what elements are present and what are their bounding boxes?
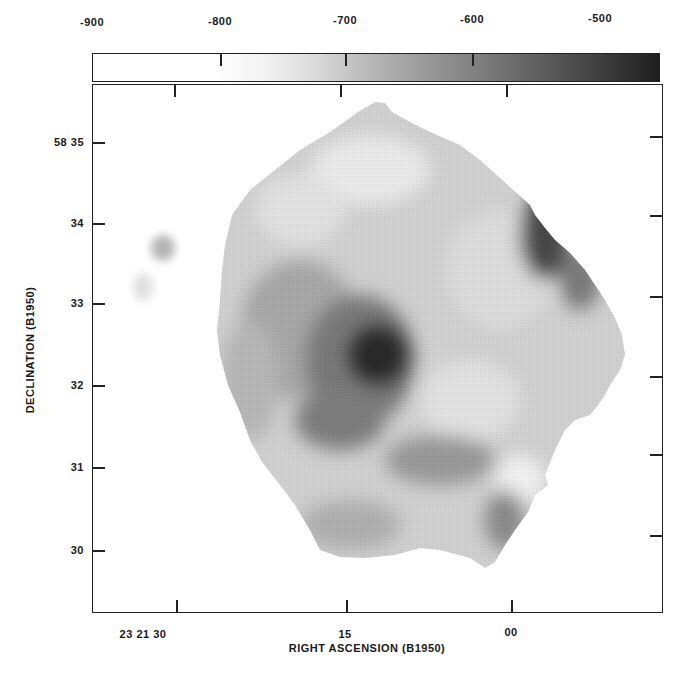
y-tick-label: 31 xyxy=(71,461,84,473)
plot-frame xyxy=(92,84,663,613)
y-tick xyxy=(93,550,105,552)
x-tick xyxy=(511,600,513,612)
y-tick-label: 32 xyxy=(71,379,84,391)
y-tick xyxy=(650,376,662,378)
y-tick xyxy=(650,454,662,456)
x-tick-label: 00 xyxy=(504,626,517,638)
y-axis-title: DECLINATION (B1950) xyxy=(24,287,36,414)
x-tick xyxy=(176,600,178,612)
y-tick xyxy=(650,535,662,537)
y-tick xyxy=(93,385,105,387)
y-tick-label: 30 xyxy=(71,544,84,556)
y-tick xyxy=(93,223,105,225)
x-tick-label: 23 21 30 xyxy=(120,628,167,640)
y-tick xyxy=(93,303,105,305)
y-tick xyxy=(93,467,105,469)
y-tick xyxy=(650,136,662,138)
y-tick xyxy=(650,296,662,298)
x-tick-label: 15 xyxy=(338,628,351,640)
x-tick xyxy=(346,600,348,612)
y-tick-label: 34 xyxy=(71,217,84,229)
y-tick xyxy=(93,142,105,144)
x-tick xyxy=(174,85,176,97)
y-tick xyxy=(650,215,662,217)
y-tick-label: 33 xyxy=(71,297,84,309)
x-tick xyxy=(506,85,508,97)
x-tick xyxy=(340,85,342,97)
y-tick-label: 58 35 xyxy=(54,136,84,148)
x-axis-title: RIGHT ASCENSION (B1950) xyxy=(289,642,446,654)
